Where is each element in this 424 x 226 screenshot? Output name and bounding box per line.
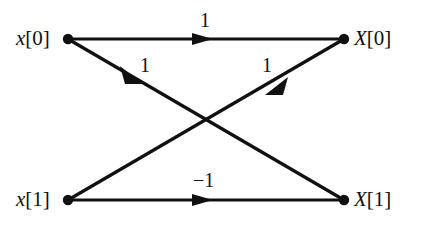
figure-canvas: x[0] x[1] X[0] X[1] 1 1 1 −1 — [0, 0, 424, 226]
node-label-x0: x[0] — [16, 28, 50, 49]
arrowhead — [120, 66, 142, 84]
node-index: [0] — [25, 26, 50, 50]
node-dot-x1 — [63, 195, 73, 205]
edge-gain-x1-to-X1: −1 — [193, 170, 214, 190]
edge-gain-x1-to-X0: 1 — [262, 55, 272, 75]
arrowhead — [192, 194, 213, 206]
node-index: [1] — [25, 187, 50, 211]
node-dot-X0 — [339, 34, 349, 44]
edge-x1-to-X1 — [68, 194, 344, 206]
node-index: [0] — [367, 26, 392, 50]
node-dot-x0 — [63, 34, 73, 44]
node-label-X0: X[0] — [354, 28, 391, 49]
edge-gain-x0-to-X0: 1 — [200, 10, 210, 30]
node-dot-X1 — [339, 195, 349, 205]
edge-gain-x0-to-X1: 1 — [140, 55, 150, 75]
node-label-X1: X[1] — [354, 189, 391, 210]
node-label-x1: x[1] — [16, 189, 50, 210]
node-symbol: X — [354, 187, 367, 211]
node-index: [1] — [367, 187, 392, 211]
node-symbol: x — [16, 26, 25, 50]
arrowhead — [192, 33, 213, 45]
node-symbol: x — [16, 187, 25, 211]
edge-x0-to-X0 — [68, 33, 344, 45]
node-symbol: X — [354, 26, 367, 50]
